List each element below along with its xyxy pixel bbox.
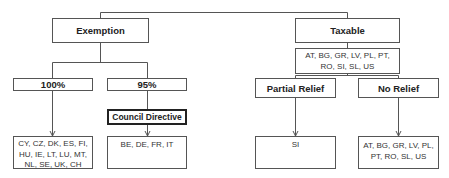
partial-relief-label: Partial Relief [267,83,325,94]
exemption-100-countries: CY, CZ, DK, ES, FI, HU, IE, LT, LU, MT, … [17,139,89,171]
arrowhead-icons [50,131,401,136]
exemption-95-node: 95% [107,78,187,91]
exemption-node: Exemption [52,18,149,43]
no-relief-countries-node: AT, BG, GR, LV, PL, PT, RO, SL, US [358,136,439,169]
exemption-95-countries-node: BE, DE, FR, IT [107,136,187,169]
taxable-countries: AT, BG, GR, LV, PL, PT, RO, SI, SL, US [302,51,394,72]
partial-relief-countries: SI [292,140,300,151]
exemption-100-countries-node: CY, CZ, DK, ES, FI, HU, IE, LT, LU, MT, … [13,136,93,169]
exemption-100-node: 100% [13,78,93,91]
taxable-countries-node: AT, BG, GR, LV, PL, PT, RO, SI, SL, US [295,48,400,74]
partial-relief-node: Partial Relief [255,78,336,98]
exemption-95-countries: BE, DE, FR, IT [121,140,174,151]
council-directive-label: Council Directive [112,112,181,122]
council-directive-node: Council Directive [107,109,187,125]
no-relief-node: No Relief [358,78,439,98]
taxable-node: Taxable [295,18,400,43]
no-relief-label: No Relief [378,83,419,94]
exemption-label: Exemption [76,25,125,36]
exemption-95-label: 95% [137,79,156,90]
partial-relief-countries-node: SI [255,136,336,169]
no-relief-countries: AT, BG, GR, LV, PL, PT, RO, SL, US [363,141,435,162]
exemption-100-label: 100% [41,79,65,90]
taxable-label: Taxable [330,25,365,36]
